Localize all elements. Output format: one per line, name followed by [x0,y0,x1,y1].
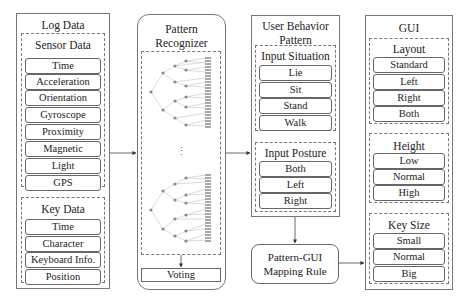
user-behavior-title-1: User Behavior [252,20,339,33]
layout-item-both: Both [373,106,445,122]
input-situation-title: Input Situation [256,50,335,63]
key-size-item-big: Big [373,266,445,282]
decision-tree-icon-top [151,58,206,126]
gui-title: GUI [366,22,452,35]
layout-title: Layout [370,43,448,56]
layout-item-standard: Standard [373,57,445,73]
height-item-normal: Normal [373,169,445,185]
key-size-item-small: Small [373,233,445,249]
input-posture-title: Input Posture [256,147,335,160]
decision-tree-icon-bottom [151,175,206,241]
layout-item-right: Right [373,90,445,106]
situation-item-lie: Lie [259,65,332,81]
posture-item-both: Both [259,161,332,177]
pattern-gui-mapping-rule-box: Pattern-GUI Mapping Rule [251,244,339,284]
posture-item-right: Right [259,193,332,209]
layout-item-left: Left [373,74,445,90]
situation-item-stand: Stand [259,98,332,114]
height-item-high: High [373,185,445,201]
posture-item-left: Left [259,177,332,193]
tree-ellipsis: ⋮ [171,145,191,158]
mapping-rule-line-2: Mapping Rule [252,265,338,278]
key-size-title: Key Size [370,219,448,232]
mapping-rule-line-1: Pattern-GUI [252,251,338,264]
voting-box: Voting [141,268,221,282]
situation-item-sit: Sit [259,82,332,98]
situation-item-walk: Walk [259,115,332,131]
key-size-item-normal: Normal [373,249,445,265]
height-title: Height [370,140,448,153]
height-item-low: Low [373,153,445,169]
voting-label: Voting [167,269,195,280]
